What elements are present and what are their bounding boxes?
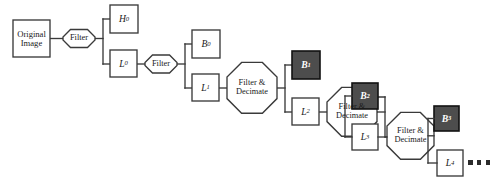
- node-l1: [192, 74, 219, 101]
- node-l4: [437, 150, 463, 176]
- node-filter-decimate-1: [227, 62, 277, 113]
- node-l0: [110, 50, 137, 77]
- node-h0: [110, 5, 138, 33]
- node-l2: [292, 98, 319, 125]
- node-b2: [352, 83, 378, 109]
- node-b3: [434, 106, 459, 131]
- node-filter-decimate-3: [387, 112, 434, 159]
- node-filter-0: [63, 30, 95, 48]
- node-b0: [192, 30, 220, 58]
- continuation-ellipsis-icon: [468, 160, 490, 165]
- node-l3: [352, 124, 378, 150]
- node-filter-1: [145, 55, 177, 73]
- node-original-image: [13, 20, 50, 57]
- node-b1: [292, 51, 320, 79]
